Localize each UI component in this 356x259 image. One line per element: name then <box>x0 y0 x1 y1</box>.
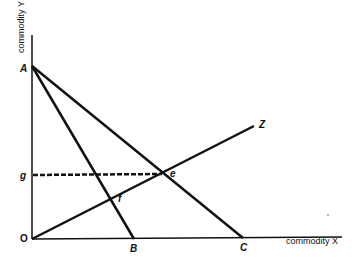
label-f: f <box>118 193 121 204</box>
label-e: e <box>170 168 176 179</box>
line-ac <box>32 66 243 238</box>
line-oz <box>32 126 254 239</box>
label-b: B <box>130 243 137 254</box>
dot-mark <box>327 214 329 216</box>
label-z: Z <box>259 119 265 130</box>
label-c: C <box>240 242 247 253</box>
label-a: A <box>20 63 27 74</box>
line-ge-dashed <box>33 174 162 175</box>
y-axis-title: commodity Y <box>16 0 26 57</box>
label-o: O <box>20 233 28 244</box>
x-axis-title: commodity X <box>286 236 338 246</box>
diagram-canvas <box>0 0 356 259</box>
label-g: g <box>20 170 26 181</box>
